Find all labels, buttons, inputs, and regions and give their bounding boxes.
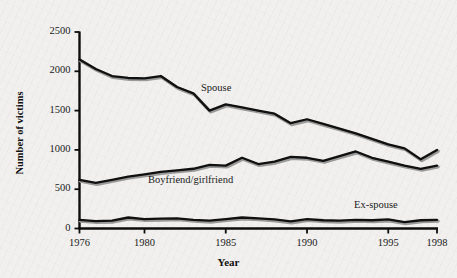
x-tick-1976: 1976 (58, 237, 102, 248)
x-tick-1995: 1995 (366, 237, 410, 248)
y-axis-title-text: Number of victims (14, 78, 25, 188)
series-label-ex-spouse: Ex-spouse (354, 199, 398, 210)
x-tick-1990: 1990 (285, 237, 329, 248)
x-axis-title-text: Year (218, 256, 240, 268)
x-axis-title: Year (0, 256, 457, 268)
y-tick-2500: 2500 (37, 25, 71, 36)
y-tick-0: 0 (37, 222, 71, 233)
series-label-boyfriend-girlfriend: Boyfriend/girlfriend (148, 174, 233, 185)
x-tick-1998: 1998 (415, 237, 457, 248)
y-tick-500: 500 (37, 182, 71, 193)
x-tick-1985: 1985 (204, 237, 248, 248)
series-shadow-1 (81, 153, 439, 184)
x-tick-1980: 1980 (123, 237, 167, 248)
y-tick-2000: 2000 (37, 64, 71, 75)
y-tick-1500: 1500 (37, 104, 71, 115)
y-tick-1000: 1000 (37, 143, 71, 154)
y-axis-title: Number of victims (14, 0, 25, 78)
chart-figure: 05001000150020002500 1976198019851990199… (0, 0, 457, 278)
series-label-spouse: Spouse (201, 82, 231, 93)
